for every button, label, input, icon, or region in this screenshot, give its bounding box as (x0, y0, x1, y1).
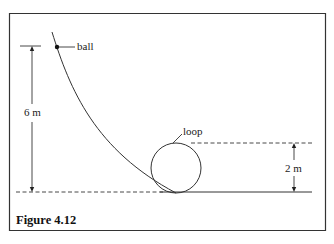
arrow-up-icon (292, 143, 296, 148)
ball-label: ball (77, 40, 94, 52)
start-height-label: 6 m (24, 106, 41, 118)
loop-circle (151, 143, 201, 193)
loop-label: loop (183, 125, 203, 137)
loop-leader-line (173, 134, 182, 143)
ball-marker (55, 45, 59, 49)
arrow-up-icon (30, 46, 34, 51)
figure-diagram: ball loop 6 m 2 m Figure 4.12 (0, 0, 334, 244)
track-curve (52, 32, 176, 193)
arrow-down-icon (30, 187, 34, 192)
figure-caption: Figure 4.12 (16, 213, 76, 227)
arrow-down-icon (292, 187, 296, 192)
loop-height-label: 2 m (285, 162, 302, 174)
